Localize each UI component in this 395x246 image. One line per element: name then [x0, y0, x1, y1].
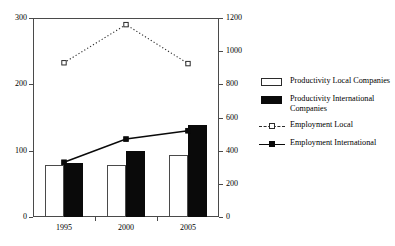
data-point-marker: [124, 22, 128, 26]
dotted-line-key-icon: [259, 121, 285, 131]
x-tick-label: 1995: [56, 224, 72, 232]
y-tick-right: [219, 217, 223, 218]
x-tick-label: 2000: [118, 224, 134, 232]
y-tick-label-right: 400: [226, 147, 238, 155]
y-tick-right: [219, 151, 223, 152]
y-tick-left: [29, 217, 33, 218]
legend-item-employment-local: Employment Local: [259, 120, 393, 131]
legend-label: Employment International: [290, 138, 376, 148]
chart-legend: Productivity Local Companies Productivit…: [259, 76, 393, 156]
y-tick-right: [219, 18, 223, 19]
y-tick-right: [219, 51, 223, 52]
legend-label: Productivity Local Companies: [290, 76, 390, 86]
y-tick-label-left: 200: [15, 80, 27, 88]
y-tick-label-right: 0: [226, 213, 230, 221]
solid-line-key-icon: [259, 139, 285, 149]
data-point-marker: [186, 61, 190, 65]
y-tick-label-right: 200: [226, 180, 238, 188]
line-path: [64, 131, 188, 163]
y-tick-label-left: 100: [15, 147, 27, 155]
y-tick-right: [219, 118, 223, 119]
legend-item-productivity-international: Productivity International Companies: [259, 94, 393, 113]
line-series-layer: [33, 18, 219, 217]
y-tick-right: [219, 84, 223, 85]
legend-label: Productivity International Companies: [290, 94, 393, 113]
data-point-marker: [62, 160, 67, 165]
line-path: [64, 25, 188, 64]
data-point-marker: [186, 128, 191, 133]
y-tick-label-right: 800: [226, 80, 238, 88]
x-tick: [95, 217, 96, 221]
legend-label: Employment Local: [290, 120, 353, 130]
y-tick-label-left: 300: [15, 14, 27, 22]
data-point-marker: [62, 61, 66, 65]
legend-item-employment-international: Employment International: [259, 138, 393, 149]
chart-figure: 0100200300 020040060080010001200 1995200…: [0, 0, 395, 246]
y-tick-label-right: 600: [226, 114, 238, 122]
x-tick: [157, 217, 158, 221]
x-tick-label: 2005: [180, 224, 196, 232]
y-tick-label-right: 1000: [226, 47, 242, 55]
plot-area: 0100200300 020040060080010001200 1995200…: [33, 18, 219, 217]
y-tick-label-right: 1200: [226, 14, 242, 22]
data-point-marker: [124, 137, 129, 142]
legend-item-productivity-local: Productivity Local Companies: [259, 76, 393, 87]
y-tick-label-left: 0: [23, 213, 27, 221]
filled-bar-key-icon: [259, 95, 285, 105]
y-tick-right: [219, 184, 223, 185]
open-bar-key-icon: [259, 77, 285, 87]
